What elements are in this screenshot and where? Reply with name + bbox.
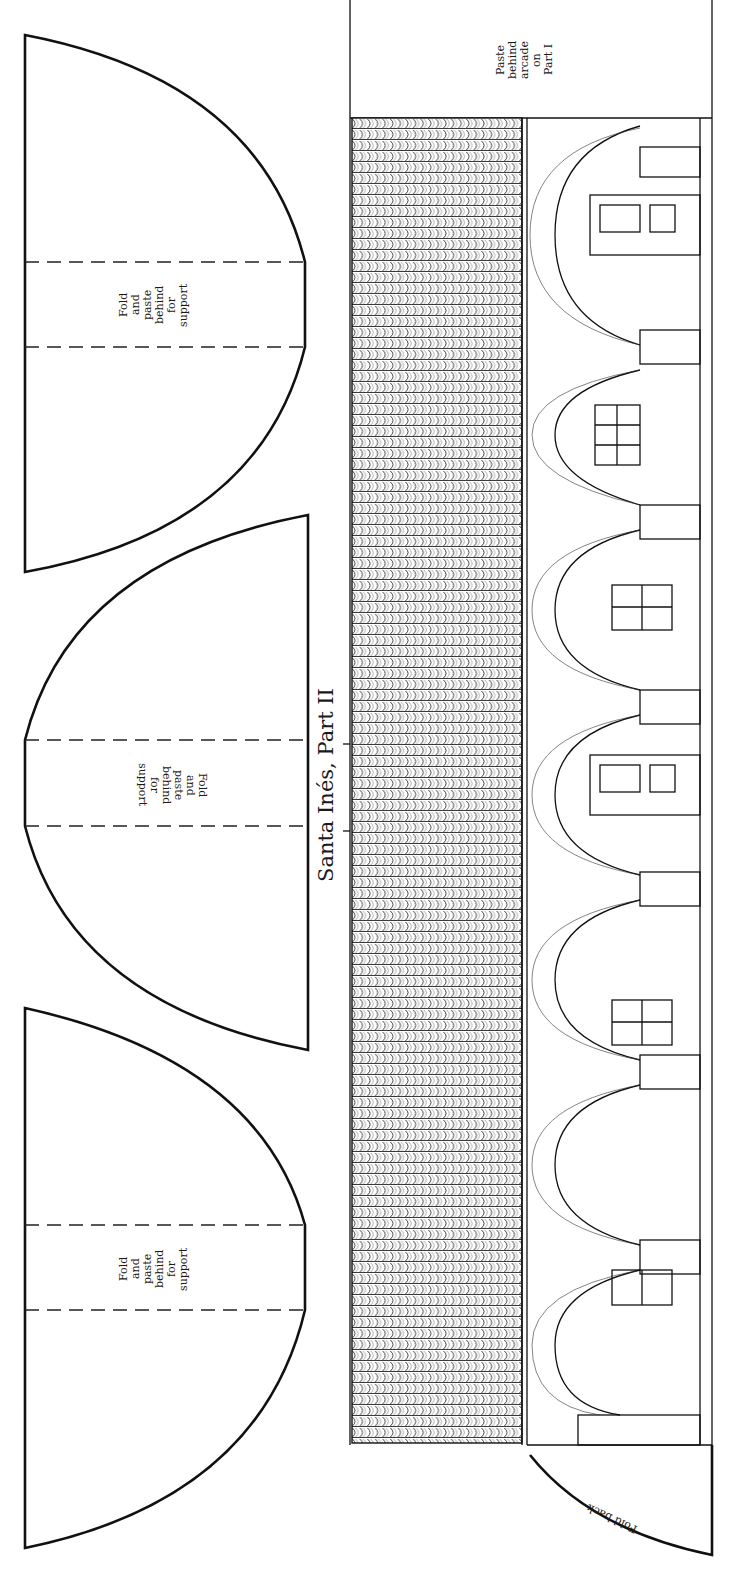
sheet-title: Santa Inés, Part II	[313, 660, 343, 910]
sheet-drawing	[0, 0, 749, 1579]
support-label-bottom: Fold and paste behind for support	[118, 1232, 208, 1306]
arcade-wall	[527, 118, 712, 1445]
support-label-middle: Fold and paste behind for support	[118, 748, 208, 822]
papercraft-sheet: Santa Inés, Part II Fold and paste behin…	[0, 0, 749, 1579]
support-label-top: Fold and paste behind for support	[118, 268, 208, 342]
fold-back-flap	[530, 1445, 712, 1555]
tile-roof	[352, 118, 527, 1445]
paste-tab-label: Paste behind arcade on Part I	[495, 30, 575, 90]
